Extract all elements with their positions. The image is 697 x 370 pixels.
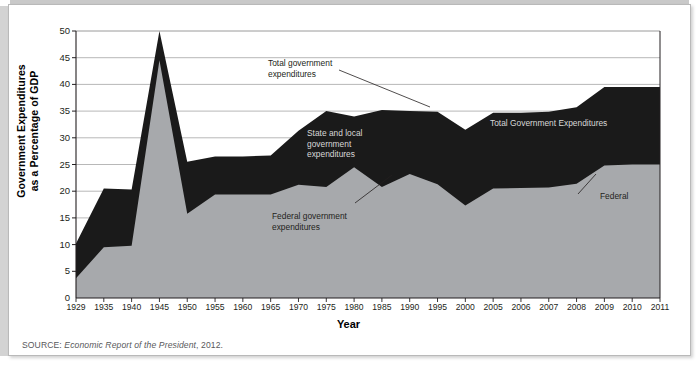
y-tick-label: 30 xyxy=(36,133,70,143)
annotation-state-local-line1: State and local xyxy=(307,128,362,138)
y-tick-label: 15 xyxy=(36,213,70,223)
figure-page: Government Expenditures as a Percentage … xyxy=(0,0,697,370)
y-tick-label: 5 xyxy=(36,266,70,276)
annotation-total-line1: Total government xyxy=(268,58,332,68)
annotation-state-local-line2: government xyxy=(307,139,351,149)
annotation-federal-inline: Federal xyxy=(600,191,628,202)
annotation-federal-line2: expenditures xyxy=(272,222,320,232)
annotation-federal-government-expenditures: Federal government expenditures xyxy=(272,211,347,232)
x-tick-label: 2011 xyxy=(640,302,680,312)
annotation-total-government-expenditures-inline: Total Government Expenditures xyxy=(490,118,607,129)
annotation-federal-line1: Federal government xyxy=(272,211,347,221)
annotation-total-line2: expenditures xyxy=(268,69,316,79)
y-tick-label: 25 xyxy=(36,160,70,170)
source-suffix: , 2012. xyxy=(196,340,223,350)
frame-left-shade xyxy=(0,6,8,356)
y-tick-label: 35 xyxy=(36,106,70,116)
y-tick-label: 40 xyxy=(36,79,70,89)
y-tick-label: 50 xyxy=(36,26,70,36)
source-prefix: SOURCE: xyxy=(22,340,64,350)
y-tick-label: 45 xyxy=(36,53,70,63)
y-tick-label: 10 xyxy=(36,240,70,250)
source-title: Economic Report of the President xyxy=(64,340,196,350)
x-axis-title: Year xyxy=(0,318,697,330)
source-note: SOURCE: Economic Report of the President… xyxy=(22,340,223,350)
y-tick-label: 20 xyxy=(36,186,70,196)
annotation-state-local-line3: expenditures xyxy=(307,149,355,159)
annotation-total-government-expenditures: Total government expenditures xyxy=(268,58,332,79)
annotation-state-and-local: State and local government expenditures xyxy=(307,128,362,160)
y-axis-title-line1: Government Expenditures xyxy=(15,64,27,198)
